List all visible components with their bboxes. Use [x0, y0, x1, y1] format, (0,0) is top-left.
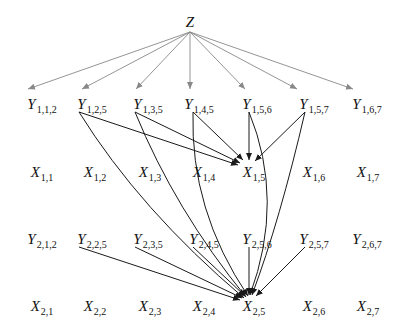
node-subscript: 1,2,5	[87, 104, 107, 115]
node-subscript: 2,5,6	[252, 239, 272, 250]
node-Y212: Y2,1,2	[27, 232, 56, 247]
node-subscript: 2,3	[149, 306, 162, 317]
node-subscript: 2,3,5	[143, 239, 163, 250]
node-label: X	[31, 298, 40, 314]
node-subscript: 1,5,7	[309, 104, 329, 115]
node-Y267: Y2,6,7	[352, 232, 381, 247]
node-label: X	[84, 298, 93, 314]
node-subscript: 1,6,7	[362, 104, 382, 115]
node-X16: X1,6	[303, 165, 326, 180]
edge-Y157-to-X15	[255, 112, 305, 161]
node-X22: X2,2	[84, 299, 107, 314]
node-label: X	[84, 164, 93, 180]
edge-Z-to-Y112	[28, 32, 190, 89]
edge-Y245-to-X25	[193, 247, 245, 296]
node-subscript: 1,7	[367, 172, 380, 183]
edge-Y135-to-X15	[135, 112, 240, 163]
node-label: Y	[27, 96, 35, 112]
node-label: Y	[77, 231, 85, 247]
node-subscript: 2,7	[367, 306, 380, 317]
node-Y245: Y2,4,5	[189, 232, 218, 247]
node-X24: X2,4	[193, 299, 216, 314]
edge-Y145-to-X25	[193, 112, 248, 296]
node-label: Y	[352, 231, 360, 247]
edge-Y156-to-X25	[249, 112, 267, 295]
node-Y145: Y1,4,5	[184, 97, 213, 112]
edge-Y135-to-X25	[135, 112, 246, 297]
edge-Z-to-Y135	[136, 32, 190, 89]
node-subscript: 1,6	[313, 172, 326, 183]
edge-Y257-to-X25	[256, 247, 305, 296]
node-subscript: 1,4	[203, 172, 216, 183]
node-subscript: 2,5	[253, 306, 266, 317]
node-Y235: Y2,3,5	[133, 232, 162, 247]
node-label: Y	[299, 96, 307, 112]
node-subscript: 2,4	[203, 306, 216, 317]
node-X14: X1,4	[193, 165, 216, 180]
node-X25: X2,5	[243, 299, 266, 314]
node-Y125: Y1,2,5	[77, 97, 106, 112]
node-X13: X1,3	[139, 165, 162, 180]
node-subscript: 2,1	[41, 306, 54, 317]
node-subscript: 1,5	[253, 172, 266, 183]
edge-Z-to-Y167	[190, 32, 353, 89]
node-subscript: 2,2	[94, 306, 107, 317]
node-label: Y	[189, 231, 197, 247]
edge-Y157-to-X25	[252, 112, 305, 295]
node-subscript: 2,1,2	[37, 239, 57, 250]
node-Y225: Y2,2,5	[77, 232, 106, 247]
node-label: Y	[352, 96, 360, 112]
node-X15: X1,5	[243, 165, 266, 180]
node-subscript: 2,6	[313, 306, 326, 317]
node-X23: X2,3	[139, 299, 162, 314]
node-label: X	[139, 298, 148, 314]
node-subscript: 1,3,5	[143, 104, 163, 115]
node-subscript: 1,2	[94, 172, 107, 183]
node-label: X	[193, 164, 202, 180]
node-X27: X2,7	[357, 299, 380, 314]
node-subscript: 2,2,5	[87, 239, 107, 250]
node-Y135: Y1,3,5	[133, 97, 162, 112]
node-label: Y	[242, 231, 250, 247]
node-label: Y	[27, 231, 35, 247]
node-subscript: 2,4,5	[199, 239, 219, 250]
edge-Z-to-Y125	[82, 32, 190, 89]
node-Y257: Y2,5,7	[299, 232, 328, 247]
node-label: X	[31, 164, 40, 180]
node-X21: X2,1	[31, 299, 54, 314]
node-label: X	[357, 298, 366, 314]
node-subscript: 1,1	[41, 172, 54, 183]
node-Y167: Y1,6,7	[352, 97, 381, 112]
node-label: Z	[186, 14, 194, 30]
node-label: Y	[242, 96, 250, 112]
node-subscript: 1,1,2	[37, 104, 57, 115]
edge-Z-to-Y157	[190, 32, 297, 89]
edge-Y235-to-X25	[135, 247, 242, 298]
node-label: X	[193, 298, 202, 314]
edge-Z-to-Y156	[190, 32, 245, 89]
node-Y112: Y1,1,2	[27, 97, 56, 112]
node-Y256: Y2,5,6	[242, 232, 271, 247]
node-label: Y	[299, 231, 307, 247]
node-subscript: 1,3	[149, 172, 162, 183]
node-X12: X1,2	[84, 165, 107, 180]
diagram-canvas: ZY1,1,2Y1,2,5Y1,3,5Y1,4,5Y1,5,6Y1,5,7Y1,…	[0, 0, 397, 329]
node-label: Y	[133, 96, 141, 112]
node-subscript: 1,5,6	[252, 104, 272, 115]
node-X11: X1,1	[31, 165, 54, 180]
node-label: X	[357, 164, 366, 180]
node-subscript: 2,5,7	[309, 239, 329, 250]
node-label: Y	[133, 231, 141, 247]
node-label: X	[303, 298, 312, 314]
node-X17: X1,7	[357, 165, 380, 180]
node-label: X	[243, 298, 252, 314]
node-Y157: Y1,5,7	[299, 97, 328, 112]
node-X26: X2,6	[303, 299, 326, 314]
node-Y156: Y1,5,6	[242, 97, 271, 112]
node-label: X	[243, 164, 252, 180]
node-Z: Z	[186, 15, 194, 30]
node-subscript: 2,6,7	[362, 239, 382, 250]
node-label: Y	[184, 96, 192, 112]
edge-Y125-to-X15	[79, 112, 238, 165]
node-label: X	[139, 164, 148, 180]
